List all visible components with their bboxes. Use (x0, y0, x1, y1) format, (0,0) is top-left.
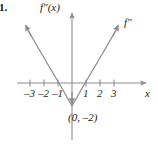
x-tick-label-neg1: –1 (52, 88, 63, 99)
x-tick-label-neg2: –2 (38, 88, 49, 99)
x-tick-label-neg3: –3 (24, 88, 35, 99)
item-number: 1. (0, 2, 7, 13)
curve-arrow-left (26, 25, 32, 36)
x-axis-label: x (145, 88, 150, 99)
curve-arrow-right (113, 25, 119, 36)
figure-container: 1. f″(x) x f″ –3 –2 –1 1 2 3 (0, –2) (0, 0, 158, 152)
curve-label: f″ (124, 17, 132, 28)
x-tick-label-3: 3 (111, 88, 117, 99)
graph-canvas (0, 0, 158, 152)
x-tick-label-1: 1 (83, 88, 89, 99)
x-tick-label-2: 2 (97, 88, 103, 99)
vertex-annotation: (0, –2) (68, 112, 97, 123)
y-axis-label: f″(x) (40, 2, 60, 13)
